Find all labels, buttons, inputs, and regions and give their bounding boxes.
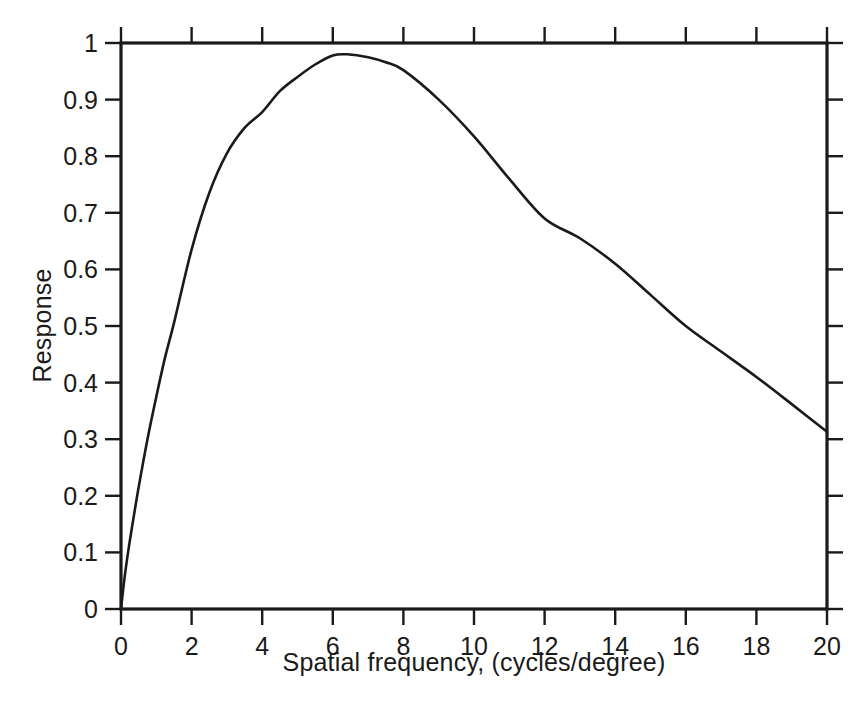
y-tick-label: 0 [84,595,98,623]
x-tick-label: 16 [672,632,700,660]
x-tick-label: 4 [255,632,269,660]
plot-frame [121,43,827,609]
y-tick-label: 1 [84,29,98,57]
y-tick-label: 0.4 [63,369,98,397]
x-tick-label: 14 [601,632,629,660]
y-tick-label: 0.1 [63,538,98,566]
x-axis-ticks-top [121,27,827,43]
x-tick-label: 12 [531,632,559,660]
y-axis-ticks-right [827,43,843,609]
y-tick-labels: 0 0.1 0.2 0.3 0.4 0.5 0.6 0.7 0.8 0.9 1 [63,29,98,623]
x-tick-labels: 0 2 4 6 8 10 12 14 16 18 20 [114,632,841,660]
y-axis-ticks [105,43,121,609]
figure-canvas: 0 0.1 0.2 0.3 0.4 0.5 0.6 0.7 0.8 0.9 1 … [0,0,864,706]
x-tick-label: 0 [114,632,128,660]
y-tick-label: 0.6 [63,255,98,283]
response-curve-chart: 0 0.1 0.2 0.3 0.4 0.5 0.6 0.7 0.8 0.9 1 … [0,0,864,706]
x-tick-label: 18 [742,632,770,660]
x-tick-label: 6 [326,632,340,660]
x-axis-ticks [121,609,827,625]
x-tick-label: 10 [460,632,488,660]
y-tick-label: 0.2 [63,482,98,510]
y-tick-label: 0.3 [63,425,98,453]
x-tick-label: 8 [396,632,410,660]
y-tick-label: 0.9 [63,86,98,114]
y-tick-label: 0.7 [63,199,98,227]
y-tick-label: 0.5 [63,312,98,340]
x-tick-label: 2 [185,632,199,660]
x-tick-label: 20 [813,632,841,660]
y-tick-label: 0.8 [63,142,98,170]
